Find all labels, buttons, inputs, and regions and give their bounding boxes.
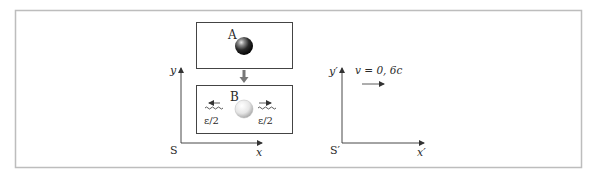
- box-a: A: [197, 23, 293, 69]
- origin-label: S: [170, 144, 178, 157]
- velocity-label: v = 0, 6c: [355, 64, 402, 76]
- x-prime-axis-label: x′: [417, 146, 426, 159]
- figure-frame: [16, 11, 582, 168]
- diagram-canvas: A B ε/2 ε/2 y x S y′: [0, 0, 598, 176]
- right-photon-label: ε/2: [258, 115, 273, 126]
- light-sphere-icon: [235, 100, 253, 118]
- origin-prime-label: S′: [330, 144, 341, 157]
- y-axis-label: y: [169, 64, 177, 77]
- x-axis-label: x: [256, 146, 263, 159]
- y-prime-axis-label: y′: [328, 65, 338, 78]
- dark-sphere-icon: [235, 37, 253, 55]
- box-a-label: A: [227, 28, 237, 42]
- box-b: B ε/2 ε/2: [197, 86, 293, 134]
- left-photon-label: ε/2: [204, 115, 219, 126]
- down-arrow-icon: [240, 70, 249, 83]
- frame-s-prime: y′ x′ S′ v = 0, 6c: [328, 64, 426, 159]
- box-b-label: B: [230, 90, 239, 104]
